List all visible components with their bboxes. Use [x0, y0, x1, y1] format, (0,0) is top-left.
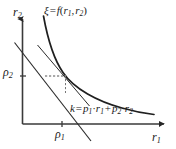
curve-arg2-subscript: 2 [79, 9, 83, 18]
diagram-vector-layer [0, 0, 176, 149]
y-axis-tick-label-rho2: ρ2 [3, 66, 13, 78]
curve-equation-label: ξ = f(r1, r2) [44, 5, 87, 16]
curve-arg1-subscript: 1 [68, 9, 72, 18]
rho2-base: ρ [3, 65, 9, 79]
y-axis-label: r2 [13, 6, 22, 18]
budget-p1-subscript: 1 [88, 107, 92, 116]
budget-line [15, 43, 92, 142]
budget-plus: + [105, 102, 111, 114]
budget-p2-subscript: 2 [117, 107, 121, 116]
diagram-canvas: r2 r1 ρ2 ρ1 ξ = f(r1, r2) k = p1·r1 + p2… [0, 0, 176, 149]
x-axis-label-subscript: 1 [157, 136, 161, 145]
x-axis-label: r1 [152, 131, 161, 143]
iso-quantity-curve [44, 16, 155, 115]
y-axis-label-base: r [13, 5, 18, 19]
budget-r1-subscript: 1 [100, 107, 104, 116]
rho1-subscript: 1 [61, 133, 65, 142]
budget-equation-label: k = p1·r1 + p2·r2 [70, 103, 133, 114]
rho1-base: ρ [55, 127, 61, 141]
x-axis-label-base: r [152, 130, 157, 144]
budget-r2-subscript: 2 [129, 107, 133, 116]
rho2-subscript: 2 [9, 71, 13, 80]
curve-close-paren: ) [83, 4, 87, 16]
x-axis-tick-label-rho1: ρ1 [55, 128, 65, 140]
budget-equals: = [76, 102, 82, 114]
budget-lhs: k [70, 102, 75, 114]
y-axis-label-subscript: 2 [18, 11, 22, 20]
